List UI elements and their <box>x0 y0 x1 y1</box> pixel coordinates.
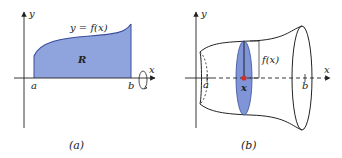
y-axis-label-b: y <box>200 8 207 19</box>
radius-label: f(x) <box>261 54 279 65</box>
bound-b-label-b: b <box>302 80 308 91</box>
panel-a: y x y = f(x) R a b (a) <box>14 8 155 152</box>
region-label: R <box>77 54 86 65</box>
x-axis-label: x <box>149 64 155 75</box>
point-x <box>241 75 246 80</box>
right-rim <box>292 26 312 130</box>
caption-b: (b) <box>241 139 257 152</box>
curve-label: y = f(x) <box>69 22 108 33</box>
caption-a: (a) <box>69 139 84 152</box>
diagram-canvas: y x y = f(x) R a b (a) y x f(x) x a <box>0 0 342 158</box>
bound-a-label-b: a <box>203 79 209 90</box>
bound-a-label: a <box>31 80 37 91</box>
x-axis-label-b: x <box>324 64 330 75</box>
bound-b-label: b <box>128 80 134 91</box>
panel-b: y x f(x) x a b (b) <box>185 8 330 152</box>
y-axis-label: y <box>28 8 35 19</box>
point-x-label: x <box>240 82 248 93</box>
